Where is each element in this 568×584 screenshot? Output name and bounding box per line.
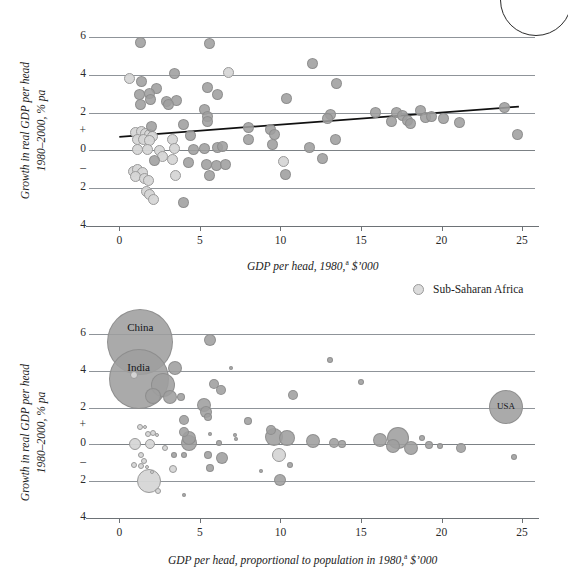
data-point [124, 73, 135, 84]
data-point [204, 334, 216, 346]
x-tick-label-20: 20 [427, 526, 457, 538]
y-axis-title-line1-bottom: Growth in real GDP per head [18, 325, 34, 540]
data-point [130, 371, 138, 379]
y-axis-title-line1: Growth in real GDP per head [18, 23, 34, 238]
x-tick-mark-25 [522, 518, 523, 523]
y-tick-label-+: + [62, 124, 86, 136]
data-point [145, 439, 155, 449]
data-point [143, 425, 147, 429]
x-tick-mark-0 [119, 518, 120, 523]
y-tick-mark-4 [89, 75, 100, 76]
x-tick-mark-5 [200, 518, 201, 523]
y-tick-label-2: 2 [62, 473, 86, 485]
data-point [425, 441, 433, 449]
data-point [206, 464, 214, 472]
data-point [216, 385, 226, 395]
data-point [330, 134, 341, 145]
data-point [208, 432, 212, 436]
chart-panel-bottom: Growth in real GDP per head 1980–2000, %… [0, 290, 568, 584]
data-point [454, 117, 465, 128]
y-tick-mark-4 [89, 371, 100, 372]
data-point [143, 175, 154, 186]
data-point [169, 465, 177, 473]
data-point [177, 393, 185, 401]
y-tick-mark-0 [89, 150, 100, 151]
data-point [269, 129, 280, 140]
data-point [179, 427, 189, 437]
data-point [188, 144, 199, 155]
y-tick-label-6: 6 [62, 29, 86, 41]
data-point [182, 493, 186, 497]
data-point [163, 390, 177, 404]
y-axis-title-line2: 1980–2000, % pa [34, 23, 50, 238]
data-point [259, 469, 263, 473]
data-point [438, 113, 449, 124]
y-tick-label-4: 4 [62, 510, 86, 522]
data-point [272, 448, 286, 462]
data-point [386, 439, 400, 453]
data-point [279, 430, 295, 446]
data-point [419, 435, 425, 441]
data-point [178, 197, 189, 208]
plot-area-bottom [100, 323, 535, 529]
trend-line [100, 26, 535, 237]
y-tick-label-2: 2 [62, 105, 86, 117]
x-tick-mark-10 [280, 518, 281, 523]
y-tick-label-4: 4 [62, 363, 86, 375]
data-point [138, 452, 144, 458]
y-tick-label-4: 4 [62, 218, 86, 230]
x-tick-label-5: 5 [185, 526, 215, 538]
x-tick-mark-20 [442, 518, 443, 523]
x-tick-label-0: 0 [104, 526, 134, 538]
data-point [148, 194, 159, 205]
data-point [223, 67, 234, 78]
data-point [138, 463, 144, 469]
data-point [142, 144, 153, 155]
x-tick-mark-15 [361, 518, 362, 523]
data-point [216, 440, 222, 446]
data-point [155, 433, 159, 437]
data-point [171, 452, 177, 458]
data-point [304, 142, 315, 153]
data-point [169, 68, 180, 79]
data-point [135, 37, 146, 48]
y-tick-mark-0 [89, 444, 100, 445]
data-point [266, 425, 276, 435]
x-axis-title-bottom: GDP per head, proportional to population… [168, 552, 437, 566]
data-point [288, 390, 298, 400]
y-tick-mark-2 [89, 113, 100, 114]
data-point [169, 143, 180, 154]
y-axis-title-line2-bottom: 1980–2000, % pa [34, 325, 50, 540]
data-point [216, 452, 228, 464]
data-point [204, 413, 212, 421]
plot-area-top [100, 26, 535, 237]
y-tick-mark-6 [89, 334, 100, 335]
data-point [168, 361, 182, 375]
y-axis-title-top: Growth in real GDP per head 1980–2000, %… [18, 23, 49, 238]
data-point [132, 144, 143, 155]
chart-panel-top: Growth in real GDP per head 1980–2000, %… [0, 0, 568, 292]
x-axis-line [86, 518, 539, 519]
data-point [243, 134, 254, 145]
data-point [512, 129, 523, 140]
data-point [204, 451, 212, 459]
data-point [162, 445, 168, 451]
data-point [163, 99, 174, 110]
data-point [217, 141, 228, 152]
data-point [358, 379, 364, 385]
bubble-usa [489, 390, 523, 424]
data-point [437, 443, 443, 449]
data-point [306, 434, 320, 448]
y-tick-label-–: – [62, 161, 86, 173]
y-tick-mark-2 [89, 408, 100, 409]
y-tick-label-2: 2 [62, 180, 86, 192]
y-tick-mark--2 [89, 188, 100, 189]
x-tick-label-15: 15 [346, 526, 376, 538]
data-point [145, 388, 161, 404]
x-tick-label-25: 25 [507, 526, 537, 538]
y-axis-title-bottom: Growth in real GDP per head 1980–2000, %… [18, 325, 49, 540]
data-point [404, 441, 418, 455]
y-tick-label-6: 6 [62, 326, 86, 338]
data-point [181, 452, 187, 458]
data-point [274, 474, 286, 486]
